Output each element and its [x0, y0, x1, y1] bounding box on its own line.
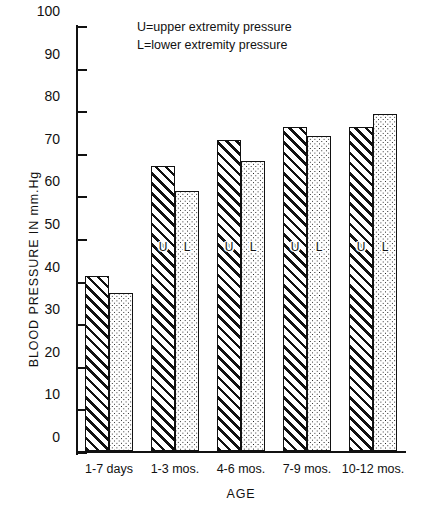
y-axis-tick-label: 80 [20, 88, 60, 104]
bar-group: UL [217, 25, 265, 451]
x-axis-category-label: 10-12 mos. [313, 462, 423, 476]
bar-group: UL [283, 25, 331, 451]
bar-l: L [241, 161, 265, 451]
y-axis-tick-label: 0 [20, 429, 60, 445]
y-axis-tick-label: 30 [20, 301, 60, 317]
bar-letter-label: U [350, 240, 372, 254]
bar-letter-label: L [242, 240, 264, 254]
y-axis-tick-label: 10 [20, 386, 60, 402]
bar-letter-label: U [284, 240, 306, 254]
y-axis-tick-label: 100 [20, 3, 60, 19]
bar-group: UL [151, 25, 199, 451]
bar-group: UL [85, 25, 133, 451]
bar-letter-label: L [374, 240, 396, 254]
y-axis-tick-label: 70 [20, 131, 60, 147]
bar-letter-label: U [152, 240, 174, 254]
y-axis-tick-label: 90 [20, 46, 60, 62]
bar-u: U [151, 166, 175, 451]
x-axis-line [76, 451, 406, 453]
bar-l: L [373, 114, 397, 451]
bar-letter-label: U [218, 240, 240, 254]
y-axis-tick-label: 40 [20, 259, 60, 275]
x-axis-title: AGE [76, 487, 406, 501]
bar-u: U [85, 276, 109, 451]
y-axis-tick [78, 452, 87, 454]
chart-figure: BLOOD PRESSURE IN mm.Hg U=upper extremit… [0, 0, 423, 505]
y-axis-tick-label: 20 [20, 344, 60, 360]
bar-group: UL [349, 25, 397, 451]
bar-letter-label: L [176, 240, 198, 254]
bar-letter-label: L [308, 240, 330, 254]
bar-l: L [175, 191, 199, 451]
bar-u: U [283, 127, 307, 451]
bar-l: L [307, 136, 331, 451]
y-axis-tick-label: 50 [20, 216, 60, 232]
bar-u: U [217, 140, 241, 451]
y-axis-tick-label: 60 [20, 173, 60, 189]
plot-area: 0102030405060708090100 ULULULULUL [76, 27, 406, 453]
bar-l: L [109, 293, 133, 451]
bar-u: U [349, 127, 373, 451]
